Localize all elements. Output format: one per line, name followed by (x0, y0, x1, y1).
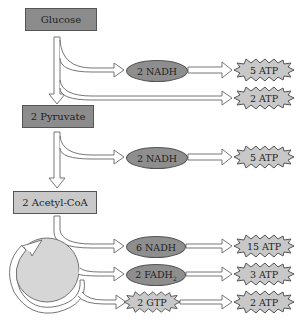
carrier-label: 2 FADH2 (135, 269, 176, 282)
atp-label: 2 ATP (234, 86, 294, 110)
carrier-cycle-nadh: 6 NADH (126, 236, 186, 258)
gtp-label: 2 GTP (124, 290, 180, 314)
stage-acetyl-coa: 2 Acetyl-CoA (13, 191, 97, 214)
stage-label: Glucose (41, 14, 81, 25)
stage-label: 2 Acetyl-CoA (22, 197, 87, 208)
atp-label: 5 ATP (234, 145, 294, 169)
arrow-pyruvate-to-nadh (60, 136, 124, 164)
carrier-label: 2 NADH (137, 153, 177, 164)
carrier-pyruvate-nadh: 2 NADH (126, 147, 188, 169)
atp-label: 3 ATP (234, 262, 294, 286)
arrow-nadh-to-atp-1 (188, 62, 232, 78)
arrow-pyruvate-to-acetylcoa (49, 132, 65, 188)
stage-glucose: Glucose (25, 8, 97, 31)
carrier-label: 2 NADH (137, 66, 177, 77)
stage-pyruvate: 2 Pyruvate (22, 105, 94, 128)
stage-label: 2 Pyruvate (31, 111, 86, 122)
atp-label: 2 ATP (234, 290, 294, 314)
carrier-subscript: 2 (173, 274, 177, 281)
arrow-cycle-to-gtp (78, 292, 126, 309)
carrier-text: 2 FADH (135, 269, 173, 280)
arrow-glucose-to-nadh (60, 40, 124, 77)
arrow-fadh2-to-atp (186, 267, 232, 281)
arrow-nadh-to-atp-2 (188, 149, 232, 165)
atp-label: 15 ATP (234, 234, 294, 258)
arrow-cycle-to-fadh2 (78, 267, 124, 281)
atp-label: 5 ATP (234, 58, 294, 82)
citric-acid-cycle (15, 238, 79, 302)
carrier-glycolysis-nadh: 2 NADH (126, 60, 188, 82)
arrow-glucose-to-atp (60, 80, 232, 105)
arrow-nadh-to-atp-3 (186, 239, 232, 253)
carrier-cycle-fadh2: 2 FADH2 (126, 264, 186, 286)
carrier-label: 6 NADH (136, 242, 176, 253)
arrow-gtp-to-atp (180, 295, 232, 309)
